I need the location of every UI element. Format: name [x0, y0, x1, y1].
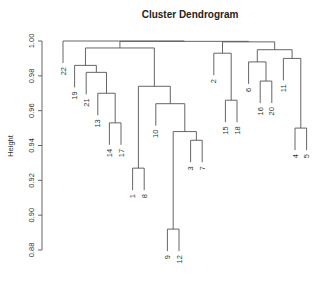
y-tick-label: 1.00 — [27, 34, 36, 49]
leaf-label: 20 — [267, 107, 276, 115]
y-tick-label: 0.88 — [27, 243, 36, 258]
leaf-label: 10 — [151, 130, 160, 138]
leaf-label: 3 — [186, 166, 195, 170]
dendrogram-chart: Cluster Dendrogram Height 0.880.900.920.… — [0, 0, 323, 285]
leaf-label: 1 — [128, 194, 137, 198]
leaf-label: 8 — [140, 194, 149, 198]
leaf-label: 9 — [163, 255, 172, 259]
y-tick-label: 0.90 — [27, 208, 36, 223]
y-tick-label: 0.94 — [27, 138, 36, 153]
leaf-label: 21 — [82, 98, 91, 106]
y-axis: 0.880.900.920.940.960.981.00 — [27, 34, 42, 258]
leaf-label: 13 — [93, 119, 102, 127]
leaf-label: 5 — [302, 154, 311, 158]
y-tick-label: 0.92 — [27, 173, 36, 188]
leaf-label: 18 — [233, 126, 242, 134]
leaf-labels: 14171321191891237101518216206451122 — [59, 67, 312, 263]
y-tick-label: 0.96 — [27, 103, 36, 118]
leaf-label: 22 — [59, 67, 68, 75]
dendrogram-branches — [63, 41, 307, 251]
leaf-label: 2 — [209, 79, 218, 83]
leaf-label: 14 — [105, 149, 114, 157]
leaf-label: 15 — [221, 126, 230, 134]
chart-title: Cluster Dendrogram — [142, 9, 239, 20]
leaf-label: 16 — [256, 107, 265, 115]
leaf-label: 19 — [70, 91, 79, 99]
leaf-label: 4 — [291, 154, 300, 158]
leaf-label: 7 — [198, 166, 207, 170]
y-tick-label: 0.98 — [27, 69, 36, 84]
leaf-label: 11 — [279, 84, 288, 92]
y-axis-title: Height — [6, 134, 15, 157]
leaf-label: 17 — [117, 149, 126, 157]
leaf-label: 12 — [175, 255, 184, 263]
leaf-label: 6 — [244, 88, 253, 92]
